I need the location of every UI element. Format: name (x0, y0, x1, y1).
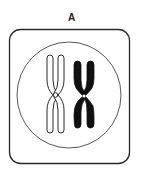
chromosome-diagram (0, 0, 143, 170)
chromosome-dark (74, 61, 94, 128)
chromosome-light (47, 55, 64, 133)
centromere-dark (82, 94, 85, 97)
nucleus-circle (17, 42, 121, 148)
cell-frame (10, 30, 130, 164)
centromere-light (53, 93, 58, 98)
